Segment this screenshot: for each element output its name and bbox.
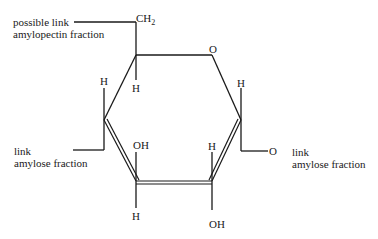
annotation-line: amylopectin fraction — [13, 28, 104, 40]
c1-h-label: H — [237, 78, 245, 89]
c3-h-label: H — [132, 211, 140, 222]
c5-h-label: H — [132, 83, 140, 94]
c4-h-label: H — [100, 76, 108, 87]
annotation-line: amylose fraction — [14, 157, 88, 169]
ch2-label: CH2 — [136, 13, 155, 28]
c3-oh-label: OH — [133, 140, 149, 151]
annotation-line: link — [14, 145, 88, 157]
annotation-amylopectin: possible link amylopectin fraction — [13, 16, 104, 40]
c1-o-label: O — [269, 146, 277, 157]
annotation-right-amylose: link amylose fraction — [292, 146, 366, 170]
annotation-left-amylose: link amylose fraction — [14, 145, 88, 169]
annotation-line: link — [292, 146, 366, 158]
c2-h-label: H — [208, 141, 216, 152]
annotation-line: amylose fraction — [292, 158, 366, 170]
annotation-line: possible link — [13, 16, 104, 28]
ring-oxygen-label: O — [209, 44, 217, 55]
c2-oh-label: OH — [209, 219, 225, 230]
